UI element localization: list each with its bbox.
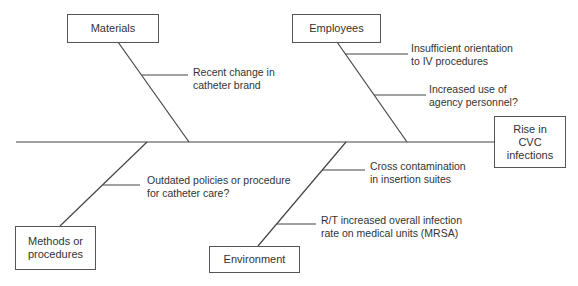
cause-line: for catheter care? — [147, 187, 291, 200]
cause-line: Cross contamination — [370, 160, 466, 173]
cause-insufficient-orientation: Insufficient orientation to IV procedure… — [411, 42, 513, 68]
effect-box: Rise in CVC infections — [494, 116, 566, 168]
category-environment: Environment — [209, 246, 300, 273]
category-methods: Methods or procedures — [15, 226, 96, 270]
cause-line: agency personnel? — [429, 96, 518, 109]
category-materials: Materials — [67, 14, 159, 43]
effect-label: CVC — [518, 136, 541, 149]
cause-line: Recent change in — [193, 66, 275, 79]
cause-line: R/T increased overall infection — [321, 214, 462, 227]
effect-label: infections — [507, 149, 553, 162]
cause-agency-personnel: Increased use of agency personnel? — [429, 83, 518, 109]
cause-line: in insertion suites — [370, 173, 466, 186]
category-label: Materials — [91, 22, 136, 35]
cause-outdated-policies: Outdated policies or procedure for cathe… — [147, 174, 291, 200]
cause-line: catheter brand — [193, 79, 275, 92]
cause-line: to IV procedures — [411, 55, 513, 68]
category-label: Environment — [224, 253, 286, 266]
category-label: Employees — [309, 22, 363, 35]
cause-cross-contamination: Cross contamination in insertion suites — [370, 160, 466, 186]
cause-recent-change: Recent change in catheter brand — [193, 66, 275, 92]
cause-line: Outdated policies or procedure — [147, 174, 291, 187]
effect-label: Rise in — [513, 123, 547, 136]
cause-line: Insufficient orientation — [411, 42, 513, 55]
cause-line: rate on medical units (MRSA) — [321, 227, 462, 240]
category-employees: Employees — [292, 14, 381, 43]
category-label: Methods or — [28, 235, 83, 248]
cause-infection-rate: R/T increased overall infection rate on … — [321, 214, 462, 240]
cause-line: Increased use of — [429, 83, 518, 96]
category-label: procedures — [28, 248, 83, 261]
